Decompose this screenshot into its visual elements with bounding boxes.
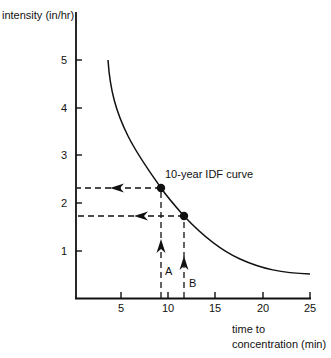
point-a-label: A	[165, 265, 172, 278]
x-tick-label-25: 25	[300, 302, 320, 315]
y-tick-label-1: 1	[53, 245, 67, 258]
y-tick-label-2: 2	[53, 197, 67, 210]
point-b-label: B	[189, 277, 196, 290]
y-axis-label: intensity (in/hr)	[2, 9, 74, 22]
x-axis-label-line1: time to	[232, 322, 326, 337]
arrow-up-a-icon	[157, 239, 166, 253]
x-ticks	[121, 292, 310, 298]
point-a-marker	[157, 184, 165, 192]
x-tick-label-15: 15	[205, 302, 225, 315]
y-tick-label-3: 3	[53, 149, 67, 162]
y-tick-label-4: 4	[53, 102, 67, 115]
idf-curve-line	[108, 60, 310, 274]
guide-lines	[77, 188, 184, 298]
x-tick-label-5: 5	[111, 302, 131, 315]
y-tick-label-5: 5	[53, 54, 67, 67]
point-b-marker	[180, 212, 188, 220]
arrow-left-a-icon	[110, 184, 124, 193]
x-tick-label-20: 20	[253, 302, 273, 315]
arrow-left-b-icon	[134, 212, 148, 221]
arrows	[110, 184, 189, 271]
x-axis-label-line2: concentration (min)	[232, 337, 326, 352]
x-axis-label: time to concentration (min)	[232, 322, 326, 352]
curve-label: 10-year IDF curve	[165, 168, 253, 181]
x-tick-label-10: 10	[158, 302, 178, 315]
